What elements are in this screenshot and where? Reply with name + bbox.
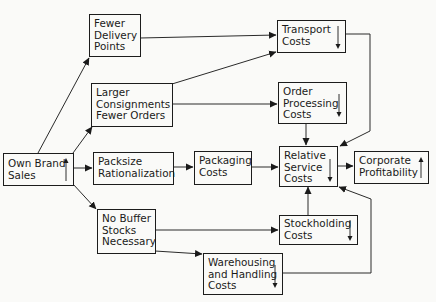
- node-label: Transport Costs: [282, 24, 341, 47]
- trend-up-arrow-icon: [63, 158, 69, 182]
- trend-down-arrow-icon: [327, 158, 333, 182]
- node-relative-service-costs: Relative Service Costs: [279, 146, 338, 187]
- node-own-brand-sales: Own Brand Sales: [3, 153, 74, 186]
- node-corporate-profitability: Corporate Profitability: [354, 151, 429, 184]
- node-label: Packaging Costs: [199, 155, 247, 178]
- trend-down-arrow-icon: [272, 264, 278, 288]
- node-label: Relative Service Costs: [284, 150, 333, 185]
- node-label: Own Brand Sales: [8, 158, 69, 181]
- node-stockholding-costs: Stockholding Costs: [279, 215, 358, 245]
- node-no-buffer-stocks: No Buffer Stocks Necessary: [97, 209, 156, 254]
- edge-sales-to-no-buffer: [73, 184, 96, 209]
- node-label: Order Processing Costs: [283, 86, 342, 121]
- node-packaging-costs: Packaging Costs: [194, 151, 252, 185]
- node-order-processing-costs: Order Processing Costs: [278, 82, 347, 124]
- edge-no-buffer-to-warehousing: [155, 251, 202, 254]
- node-fewer-delivery-points: Fewer Delivery Points: [89, 14, 141, 57]
- node-label: Warehousing and Handling Costs: [208, 257, 278, 292]
- edge-sales-to-consignments: [73, 127, 92, 153]
- node-label: Stockholding Costs: [284, 218, 353, 241]
- node-packsize-rationalization: Packsize Rationalization: [93, 152, 174, 185]
- trend-down-arrow-icon: [336, 93, 342, 117]
- edge-delivery-points-to-transport: [140, 35, 276, 38]
- edge-consignments-to-transport: [172, 52, 276, 84]
- node-label: Corporate Profitability: [359, 155, 424, 178]
- node-warehousing-handling-costs: Warehousing and Handling Costs: [203, 253, 283, 295]
- node-label: Larger Consignments Fewer Orders: [96, 87, 168, 122]
- trend-down-arrow-icon: [347, 219, 353, 241]
- trend-down-arrow-icon: [335, 25, 341, 49]
- node-transport-costs: Transport Costs: [277, 20, 346, 53]
- node-label: Fewer Delivery Points: [94, 18, 136, 53]
- node-larger-consignments: Larger Consignments Fewer Orders: [91, 83, 173, 127]
- node-label: Packsize Rationalization: [98, 156, 169, 179]
- trend-up-arrow-icon: [418, 157, 424, 179]
- node-label: No Buffer Stocks Necessary: [102, 213, 151, 248]
- edge-sales-to-delivery-points: [38, 58, 89, 153]
